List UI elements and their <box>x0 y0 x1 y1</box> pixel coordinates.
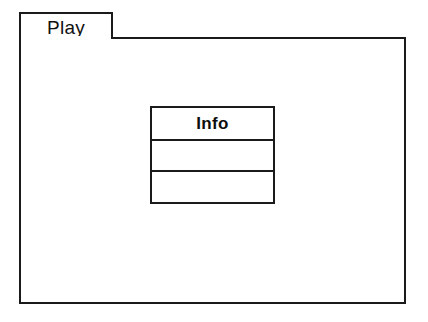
diagram-canvas: Play Info <box>0 0 428 322</box>
class-operations-compartment[interactable] <box>152 172 273 202</box>
package-tab-label: Play <box>21 17 111 36</box>
class-attributes-compartment[interactable] <box>152 141 273 172</box>
class-name-compartment[interactable]: Info <box>152 108 273 141</box>
class-name-label: Info <box>196 115 228 132</box>
class-box-info[interactable]: Info <box>150 106 275 204</box>
package-tab[interactable]: Play <box>19 12 113 39</box>
package-tab-seam <box>21 36 111 39</box>
